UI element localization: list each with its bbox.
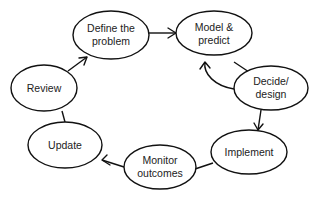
node-implement: Implement [211, 130, 287, 174]
node-label-line: Update [48, 139, 82, 151]
node-label-line: Decide/ [253, 75, 289, 87]
node-label-line: Implement [224, 146, 273, 158]
node-label-line: Define the [87, 22, 135, 34]
node-model-predict: Model & predict [176, 11, 252, 55]
arrowhead-icon [102, 155, 110, 165]
node-define-problem: Define the problem [73, 11, 149, 59]
node-label-line: predict [198, 34, 230, 46]
edge-monitor-to-update [102, 160, 124, 167]
edge-update-to-review [62, 111, 65, 122]
node-label-line: Monitor [142, 154, 178, 166]
node-monitor-outcomes: Monitor outcomes [124, 145, 196, 189]
node-decide-design: Decide/ design [234, 66, 308, 110]
node-update: Update [28, 122, 102, 168]
adaptive-management-cycle-diagram: Define the problem Model & predict Decid… [0, 0, 317, 198]
edge-model-to-decide [234, 62, 249, 72]
node-label-line: outcomes [137, 167, 183, 179]
node-label-line: problem [92, 35, 130, 47]
node-label-line: design [256, 88, 287, 100]
node-label-line: Model & [195, 21, 234, 33]
edge-implement-to-monitor [195, 163, 213, 169]
node-label-line: Review [27, 82, 62, 94]
node-review: Review [11, 65, 77, 111]
